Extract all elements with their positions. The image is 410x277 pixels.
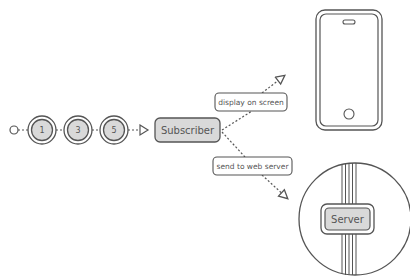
- stream-diagram: 1 3 5 Subscriber display on screen sen: [0, 0, 410, 277]
- edge-display-on-screen: display on screen: [215, 76, 287, 130]
- server-label: Server: [331, 214, 365, 225]
- stream-arrow-icon: [140, 125, 148, 135]
- stream-item-1: 1: [28, 116, 56, 144]
- edge-send-to-web-server: send to web server: [213, 132, 292, 198]
- edge-label: display on screen: [218, 98, 284, 107]
- stream-item-label: 1: [39, 126, 44, 135]
- stream-item-3: 3: [64, 116, 92, 144]
- edge-label: send to web server: [217, 162, 290, 171]
- stream-item-label: 5: [111, 126, 116, 135]
- observable-stream: 1 3 5: [10, 116, 148, 144]
- stream-item-label: 3: [75, 126, 80, 135]
- stream-start-icon: [10, 126, 18, 134]
- subscriber-label: Subscriber: [161, 125, 215, 136]
- subscriber-node: Subscriber: [155, 118, 220, 142]
- smartphone-icon: [316, 10, 382, 130]
- stream-item-5: 5: [100, 116, 128, 144]
- server-node: Server: [321, 204, 374, 234]
